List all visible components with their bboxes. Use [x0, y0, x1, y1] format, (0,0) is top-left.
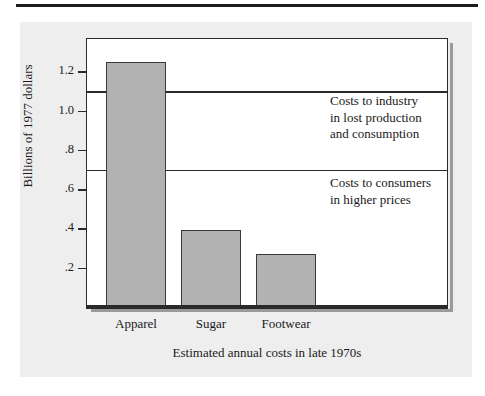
- y-tick-label-2: .6: [34, 182, 74, 195]
- y-tick-1: [78, 228, 87, 230]
- y-tick-2: [78, 189, 87, 191]
- y-tick-label-3: .8: [34, 143, 74, 156]
- y-tick-4: [78, 111, 87, 113]
- annotation-industry-line-1: Costs to industry: [330, 93, 422, 110]
- y-tick-label-1: .4: [34, 221, 74, 234]
- annotation-costs-to-consumers: Costs to consumers in higher prices: [330, 175, 431, 208]
- bar-footwear[interactable]: [256, 254, 316, 307]
- y-tick-3: [78, 150, 87, 152]
- annotation-consumers-line-2: in higher prices: [330, 192, 431, 209]
- plot-area: [86, 38, 448, 308]
- y-tick-5: [78, 71, 87, 73]
- plot-frame-shadow-bottom: [91, 309, 453, 312]
- y-tick-label-0: .2: [34, 261, 74, 274]
- annotation-industry-line-3: and consumption: [330, 126, 422, 143]
- y-tick-label-5: 1.2: [34, 64, 74, 77]
- category-label-footwear: Footwear: [236, 316, 336, 332]
- y-tick-0: [78, 268, 87, 270]
- annotation-consumers-line-1: Costs to consumers: [330, 175, 431, 192]
- top-horizontal-rule: [16, 4, 478, 7]
- annotation-costs-to-industry: Costs to industry in lost production and…: [330, 93, 422, 143]
- y-axis-title: Billions of 1977 dollars: [20, 46, 36, 206]
- plot-frame-shadow-right: [450, 43, 453, 311]
- figure-page: .2.4.6.81.01.2 Billions of 1977 dollars …: [0, 0, 485, 396]
- x-axis-title: Estimated annual costs in late 1970s: [86, 345, 448, 361]
- y-tick-label-4: 1.0: [34, 104, 74, 117]
- bar-apparel[interactable]: [106, 62, 166, 307]
- x-axis-baseline: [86, 305, 448, 309]
- annotation-industry-line-2: in lost production: [330, 110, 422, 127]
- bar-sugar[interactable]: [181, 230, 241, 307]
